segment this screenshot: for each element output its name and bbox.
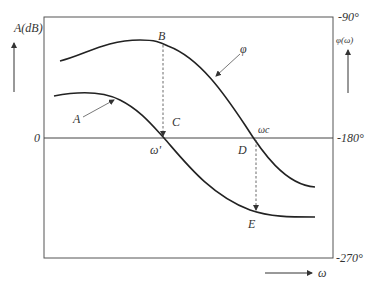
curve-phi-label: φ (240, 42, 247, 56)
omega-prime-label: ω' (150, 143, 161, 157)
leader-phi (216, 54, 240, 76)
tick-neg270: -270° (336, 251, 363, 265)
tick-neg90: -90° (338, 10, 359, 24)
omega-c-label: ωc (258, 124, 270, 135)
curve-a-label: A (72, 112, 81, 126)
left-axis-label: A(dB) (13, 21, 43, 35)
point-e-label: E (247, 217, 256, 231)
point-b-label: B (158, 29, 166, 43)
bode-diagram: A(dB) 0 -90° φ(ω) -180° -270° ω A φ B C … (0, 0, 383, 287)
point-d-label: D (237, 143, 247, 157)
right-axis-label: φ(ω) (336, 35, 353, 45)
omega-label: ω (318, 266, 326, 280)
leader-a (83, 100, 114, 117)
tick-neg180: -180° (337, 131, 364, 145)
point-c-label: C (172, 115, 181, 129)
zero-label: 0 (34, 131, 40, 145)
